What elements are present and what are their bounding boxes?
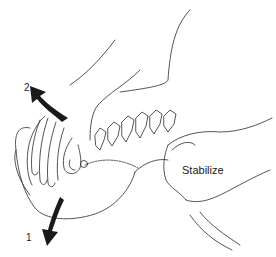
vertebra-3 — [122, 116, 134, 142]
vertebra-1 — [95, 128, 106, 150]
vertebra-5 — [150, 110, 162, 134]
stabilize-label: Stabilize — [182, 164, 224, 176]
arrow-1-label: 1 — [26, 232, 32, 243]
vertebra-6 — [164, 110, 176, 132]
arrow-2-icon — [30, 86, 68, 122]
stabilize-arm — [190, 215, 232, 250]
stabilize-wrist — [200, 212, 240, 245]
forearm-line — [70, 40, 115, 85]
finger-3 — [47, 122, 56, 187]
arrow-2-label: 2 — [24, 82, 30, 93]
vertebra-4 — [136, 112, 148, 138]
thumb-nail — [69, 160, 75, 170]
finger-4 — [57, 128, 64, 180]
stabilize-fingers — [172, 142, 195, 150]
thumb-tip — [81, 161, 88, 168]
neck-lower — [135, 160, 168, 173]
spine-manipulation-drawing — [0, 0, 276, 257]
upper-arm-top — [120, 10, 190, 92]
stabilize-hand-top — [168, 118, 272, 145]
finger-2 — [39, 118, 48, 185]
arrow-1-icon — [42, 197, 64, 246]
hairline — [85, 160, 138, 168]
illustration: 2 1 Stabilize — [0, 0, 276, 257]
thumb — [63, 138, 80, 174]
vertebra-2 — [108, 122, 120, 146]
